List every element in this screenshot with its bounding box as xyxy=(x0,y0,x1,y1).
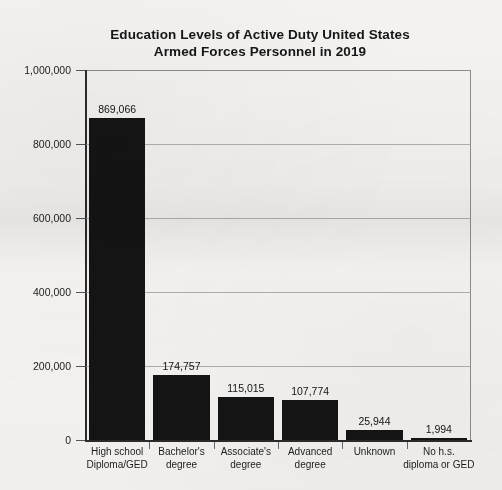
x-axis-category-label: High schoolDiploma/GED xyxy=(87,446,148,471)
y-tick-mark xyxy=(76,366,85,367)
y-tick-mark xyxy=(76,144,85,145)
chart-title: Education Levels of Active Duty United S… xyxy=(60,26,460,60)
x-label-line: Advanced xyxy=(288,446,332,459)
y-tick-label: 800,000 xyxy=(0,138,71,150)
bars-layer xyxy=(85,70,471,440)
bar xyxy=(282,400,338,440)
x-axis-category-label: Unknown xyxy=(354,446,396,459)
bar-value-label: 869,066 xyxy=(98,103,136,115)
x-label-line: degree xyxy=(158,459,204,472)
x-axis-category-label: Advanceddegree xyxy=(288,446,332,471)
bar xyxy=(411,438,467,440)
x-tick-mark xyxy=(407,442,408,449)
x-axis-category-label: No h.s.diploma or GED xyxy=(403,446,474,471)
y-tick-label: 1,000,000 xyxy=(0,64,71,76)
x-label-line: High school xyxy=(87,446,148,459)
x-tick-mark xyxy=(342,442,343,449)
x-tick-mark xyxy=(278,442,279,449)
x-axis-category-label: Bachelor'sdegree xyxy=(158,446,204,471)
y-tick-mark xyxy=(76,70,85,71)
y-tick-mark xyxy=(76,218,85,219)
x-label-line: Associate's xyxy=(221,446,271,459)
x-axis-category-label: Associate'sdegree xyxy=(221,446,271,471)
y-tick-mark xyxy=(76,292,85,293)
bar-chart-figure: Education Levels of Active Duty United S… xyxy=(0,0,502,490)
bar xyxy=(89,118,145,440)
x-label-line: No h.s. xyxy=(403,446,474,459)
x-label-line: degree xyxy=(221,459,271,472)
chart-title-line-2: Armed Forces Personnel in 2019 xyxy=(60,43,460,60)
bar xyxy=(218,397,274,440)
y-tick-label: 200,000 xyxy=(0,360,71,372)
bar-value-label: 1,994 xyxy=(426,423,452,435)
bar xyxy=(346,430,402,440)
bar-value-label: 107,774 xyxy=(291,385,329,397)
x-tick-mark xyxy=(214,442,215,449)
y-tick-label: 0 xyxy=(0,434,71,446)
y-tick-label: 400,000 xyxy=(0,286,71,298)
bar xyxy=(153,375,209,440)
x-tick-mark xyxy=(149,442,150,449)
y-tick-mark xyxy=(76,440,85,441)
x-label-line: Bachelor's xyxy=(158,446,204,459)
x-label-line: Diploma/GED xyxy=(87,459,148,472)
bar-value-label: 174,757 xyxy=(163,360,201,372)
bar-value-label: 115,015 xyxy=(227,382,264,394)
bar-value-label: 25,944 xyxy=(358,415,390,427)
chart-title-line-1: Education Levels of Active Duty United S… xyxy=(110,27,410,42)
x-label-line: Unknown xyxy=(354,446,396,459)
x-label-line: diploma or GED xyxy=(403,459,474,472)
y-tick-label: 600,000 xyxy=(0,212,71,224)
x-label-line: degree xyxy=(288,459,332,472)
